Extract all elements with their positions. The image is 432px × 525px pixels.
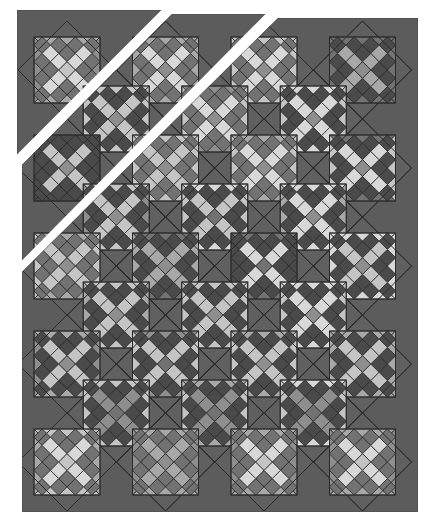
quilt-panels [0,0,432,525]
quilt-illustration [0,0,432,525]
quilt-svg [0,0,432,525]
